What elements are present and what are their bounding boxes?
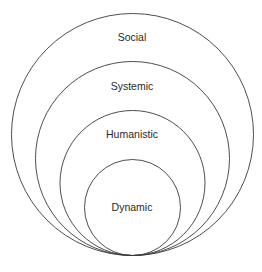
label-humanistic: Humanistic <box>106 128 158 140</box>
nested-circles-diagram: Social Systemic Humanistic Dynamic <box>0 0 262 272</box>
label-dynamic: Dynamic <box>112 201 153 213</box>
label-systemic: Systemic <box>111 80 154 92</box>
label-social: Social <box>118 31 147 43</box>
